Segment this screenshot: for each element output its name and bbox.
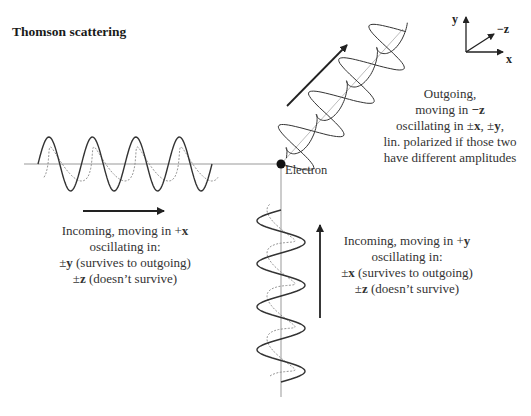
- incoming-y-line-0: Incoming, moving in +y: [318, 233, 496, 249]
- outgoing-line-2: oscillating in ±x, ±y,: [368, 118, 531, 134]
- incoming-x-description: Incoming, moving in +x oscillating in: ±…: [40, 223, 210, 287]
- incoming-x-line-2: ±y (survives to outgoing): [40, 255, 210, 271]
- axis-label-y: y: [452, 12, 458, 27]
- incoming-y-line-3: ±z (doesn’t survive): [318, 281, 496, 297]
- electron-label: Electron: [285, 163, 327, 178]
- outgoing-description: Outgoing, moving in −z oscillating in ±x…: [368, 86, 531, 166]
- diagram-title: Thomson scattering: [12, 24, 126, 40]
- incoming-y-line-1: oscillating in:: [318, 249, 496, 265]
- outgoing-line-3: lin. polarized if those two: [368, 134, 531, 150]
- outgoing-direction-arrow: [287, 45, 347, 106]
- axis-label-minus-z: −z: [497, 22, 509, 37]
- outgoing-line-4: have different amplitudes: [368, 150, 531, 166]
- axis-label-x: x: [506, 52, 512, 67]
- incoming-y-description: Incoming, moving in +y oscillating in: ±…: [318, 233, 496, 297]
- diagram-canvas: [0, 0, 531, 416]
- thomson-scattering-diagram: Thomson scattering y x −z Electron Outgo…: [0, 0, 531, 416]
- incoming-x-line-0: Incoming, moving in +x: [40, 223, 210, 239]
- outgoing-line-0: Outgoing,: [368, 86, 531, 102]
- outgoing-line-1: moving in −z: [368, 102, 531, 118]
- incoming-x-line-1: oscillating in:: [40, 239, 210, 255]
- incoming-y-line-2: ±x (survives to outgoing): [318, 265, 496, 281]
- incoming-x-line-3: ±z (doesn’t survive): [40, 271, 210, 287]
